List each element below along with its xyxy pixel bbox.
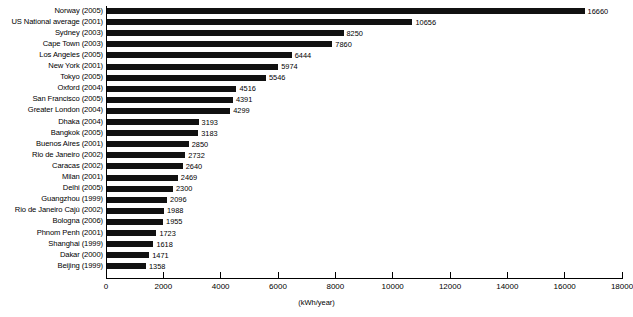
x-axis-tick-label: 2000 (154, 282, 172, 291)
x-axis-tick (106, 272, 107, 278)
bar-row: 2732 (0, 150, 633, 161)
bar-value-label: 16660 (588, 7, 609, 16)
bar (107, 64, 278, 70)
bar-row: 8250 (0, 28, 633, 39)
bar-row: 1955 (0, 217, 633, 228)
bar-value-label: 1358 (149, 262, 165, 271)
bar-row: 2469 (0, 173, 633, 184)
bar-row: 4516 (0, 84, 633, 95)
bar (107, 130, 198, 136)
x-axis-tick-label: 14000 (496, 282, 518, 291)
bar-row: 2640 (0, 161, 633, 172)
x-axis-tick (450, 272, 451, 278)
bar (107, 241, 153, 247)
bar-row: 3193 (0, 117, 633, 128)
bar-value-label: 2850 (192, 140, 208, 149)
bar-value-label: 2096 (170, 195, 186, 204)
x-axis-tick (335, 272, 336, 278)
x-axis-tick-label: 16000 (554, 282, 576, 291)
x-axis-line (106, 278, 623, 279)
bar (107, 52, 292, 58)
bar (107, 8, 585, 14)
bar-value-label: 3183 (201, 129, 217, 138)
x-axis-tick-label: 6000 (269, 282, 287, 291)
x-axis-tick-label: 4000 (212, 282, 230, 291)
bar-row: 7860 (0, 39, 633, 50)
bar-value-label: 5974 (281, 62, 297, 71)
bar-value-label: 1618 (156, 240, 172, 249)
bar (107, 175, 178, 181)
bar (107, 197, 167, 203)
bar (107, 97, 233, 103)
bar-value-label: 1471 (152, 251, 168, 260)
bar-row: 2300 (0, 184, 633, 195)
bar-row: 5546 (0, 73, 633, 84)
bar (107, 86, 236, 92)
x-axis-tick (163, 272, 164, 278)
bar-row: 2850 (0, 139, 633, 150)
bar-value-label: 1988 (167, 206, 183, 215)
bar-row: 16660 (0, 6, 633, 17)
bar-row: 4299 (0, 106, 633, 117)
bar (107, 119, 199, 125)
x-axis-title: (kWh/year) (0, 298, 633, 307)
bar-value-label: 8250 (347, 29, 363, 38)
bar (107, 141, 189, 147)
bar-value-label: 7860 (335, 40, 351, 49)
bar (107, 152, 185, 158)
x-axis-tick (622, 272, 623, 278)
x-axis-tick-label: 10000 (382, 282, 404, 291)
x-axis-tick (278, 272, 279, 278)
bar-row: 10656 (0, 17, 633, 28)
x-axis-tick (392, 272, 393, 278)
x-axis-tick-label: 0 (104, 282, 108, 291)
bar (107, 230, 156, 236)
bar-value-label: 4299 (233, 106, 249, 115)
bar-value-label: 10656 (415, 18, 436, 27)
bar (107, 219, 163, 225)
bar-value-label: 3193 (202, 118, 218, 127)
x-axis-tick (220, 272, 221, 278)
bar-value-label: 1723 (159, 229, 175, 238)
bar-value-label: 6444 (295, 51, 311, 60)
bar-value-label: 4391 (236, 95, 252, 104)
bar-row: 1358 (0, 261, 633, 272)
bar (107, 252, 149, 258)
bar (107, 208, 164, 214)
x-axis-tick-label: 12000 (439, 282, 461, 291)
bar-row: 1723 (0, 228, 633, 239)
x-axis-tick-label: 18000 (611, 282, 633, 291)
bar (107, 75, 266, 81)
bar-row: 1471 (0, 250, 633, 261)
bar-row: 4391 (0, 95, 633, 106)
bar-row: 2096 (0, 195, 633, 206)
bar-row: 3183 (0, 128, 633, 139)
bar-row: 1988 (0, 206, 633, 217)
bar (107, 30, 344, 36)
bar (107, 163, 183, 169)
x-axis-tick (564, 272, 565, 278)
bar (107, 41, 332, 47)
bar-value-label: 2469 (181, 173, 197, 182)
bar-value-label: 1955 (166, 217, 182, 226)
bar-row: 6444 (0, 50, 633, 61)
bar-value-label: 2300 (176, 184, 192, 193)
bar (107, 186, 173, 192)
bar (107, 263, 146, 269)
x-axis-tick (507, 272, 508, 278)
bar-value-label: 2640 (186, 162, 202, 171)
bar-value-label: 2732 (188, 151, 204, 160)
bar-row: 1618 (0, 239, 633, 250)
bar (107, 19, 412, 25)
electricity-consumption-bar-chart: Norway (2005)US National average (2001)S… (0, 0, 633, 317)
bar-value-label: 4516 (239, 84, 255, 93)
bar-row: 5974 (0, 62, 633, 73)
bar-value-label: 5546 (269, 73, 285, 82)
x-axis-tick-label: 8000 (326, 282, 344, 291)
bar (107, 108, 230, 114)
